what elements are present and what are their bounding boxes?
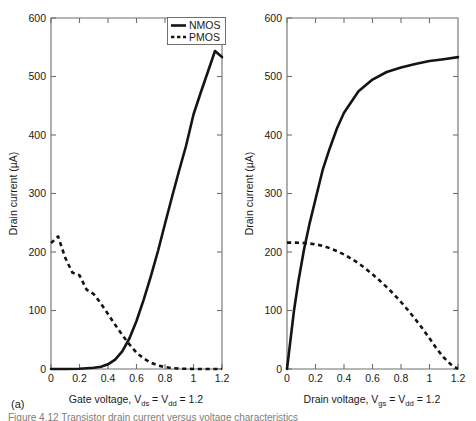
x-tick-label-b-2: 0.4 (337, 372, 352, 384)
y-ticks-a (51, 18, 222, 369)
x-tick-label-b-4: 0.8 (394, 372, 409, 384)
x-axis-label-a-sub2: dd (168, 399, 176, 408)
x-ticks-a (51, 18, 222, 369)
x-tick-label-a-3: 0.6 (129, 372, 144, 384)
x-axis-label-b: Drain voltage, Vgs = Vdd = 1.2 (304, 393, 441, 408)
axis-frame-a (51, 18, 222, 369)
figure-caption-partial: Figure 4.12 Transistor drain current ver… (8, 412, 468, 421)
y-tick-label-a-0: 0 (40, 363, 46, 375)
curve-nmos-b (287, 57, 458, 369)
x-tick-label-a-4: 0.8 (158, 372, 173, 384)
x-axis-label-a-sub1: ds (141, 399, 149, 408)
x-axis-label-a: Gate voltage, Vds = Vdd = 1.2 (69, 393, 204, 408)
x-tick-label-a-5: 1 (191, 372, 197, 384)
curve-pmos-b (287, 243, 458, 369)
x-axis-label-b-suffix: = 1.2 (414, 393, 441, 405)
y-tick-label-a-1: 100 (28, 304, 46, 316)
x-tick-label-a-2: 0.4 (101, 372, 116, 384)
legend-a[interactable]: NMOS PMOS (168, 18, 226, 45)
y-tick-label-b-6: 600 (264, 12, 282, 24)
panel-tag-a: (a) (11, 398, 24, 410)
y-axis-label-b: Drain current (µA) (243, 152, 255, 236)
x-axis-label-a-prefix: Gate voltage, V (69, 393, 141, 405)
x-axis-label-b-sub2: dd (405, 399, 413, 408)
y-tick-label-b-1: 100 (264, 304, 282, 316)
y-tick-label-a-3: 300 (28, 187, 46, 199)
x-tick-label-b-1: 0.2 (308, 372, 323, 384)
y-tick-label-a-2: 200 (28, 246, 46, 258)
legend-label-pmos: PMOS (189, 31, 220, 43)
x-tick-label-a-0: 0 (48, 372, 54, 384)
x-axis-label-b-sub1: gs (378, 399, 386, 408)
x-tick-label-b-6: 1.2 (451, 372, 466, 384)
plot-b-svg: 0 100 200 300 400 500 600 0 0.2 0.4 0.6 … (238, 0, 476, 421)
y-tick-label-b-3: 300 (264, 187, 282, 199)
y-tick-label-b-5: 500 (264, 70, 282, 82)
x-axis-label-a-suffix: = 1.2 (177, 393, 204, 405)
y-ticks-b (287, 18, 458, 369)
x-tick-label-b-5: 1 (427, 372, 433, 384)
y-tick-label-b-4: 400 (264, 129, 282, 141)
x-tick-label-b-3: 0.6 (365, 372, 380, 384)
x-tick-label-a-1: 0.2 (72, 372, 87, 384)
y-tick-label-a-4: 400 (28, 129, 46, 141)
x-tick-label-b-0: 0 (284, 372, 290, 384)
curve-nmos-a (51, 51, 222, 369)
axis-frame-b (287, 18, 458, 369)
x-ticks-b (287, 18, 458, 369)
x-tick-label-a-6: 1.2 (215, 372, 230, 384)
y-tick-label-a-5: 500 (28, 70, 46, 82)
y-tick-label-a-6: 600 (28, 12, 46, 24)
x-axis-label-b-prefix: Drain voltage, V (304, 393, 379, 405)
curve-pmos-a (51, 237, 222, 370)
x-axis-label-b-mid: = V (386, 393, 405, 405)
chart-panel-a: 0 100 200 300 400 500 600 0 0.2 0.4 0.6 … (0, 0, 238, 421)
x-axis-label-a-mid: = V (149, 393, 168, 405)
plot-a-svg: 0 100 200 300 400 500 600 0 0.2 0.4 0.6 … (0, 0, 238, 421)
legend-label-nmos: NMOS (189, 19, 221, 31)
y-tick-label-b-0: 0 (276, 363, 282, 375)
y-tick-label-b-2: 200 (264, 246, 282, 258)
y-axis-label-a: Drain current (µA) (7, 152, 19, 236)
chart-panel-b: 0 100 200 300 400 500 600 0 0.2 0.4 0.6 … (238, 0, 476, 421)
